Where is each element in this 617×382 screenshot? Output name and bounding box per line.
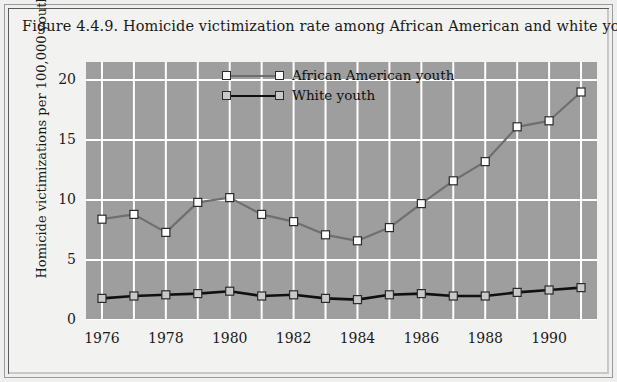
legend-label-white-youth: White youth [292, 89, 375, 103]
legend-marker-icon [275, 91, 284, 100]
series-lines [102, 92, 581, 300]
x-tick-label: 1982 [264, 330, 324, 346]
x-tick-label: 1984 [327, 330, 387, 346]
figure-title: Figure 4.4.9. Homicide victimization rat… [22, 18, 597, 34]
y-tick-label: 15 [40, 131, 76, 147]
legend-line-icon [228, 95, 278, 97]
x-tick-label: 1976 [72, 330, 132, 346]
x-tick-label: 1986 [391, 330, 451, 346]
legend-marker-icon [222, 71, 231, 80]
legend-marker-icon [275, 71, 284, 80]
legend-marker-icon [222, 91, 231, 100]
plot-area: African American youth White youth [86, 62, 597, 320]
x-tick-label: 1978 [136, 330, 196, 346]
figure-frame: Figure 4.4.9. Homicide victimization rat… [0, 0, 617, 382]
legend-swatch-african-american-youth [222, 69, 284, 83]
horizontal-gridlines [86, 80, 597, 320]
legend-line-icon [228, 75, 278, 77]
y-tick-label: 0 [40, 311, 76, 327]
y-tick-label: 20 [40, 71, 76, 87]
chart-legend: African American youth White youth [222, 66, 454, 106]
series-markers [98, 88, 585, 304]
x-tick-label: 1990 [519, 330, 579, 346]
legend-label-african-american-youth: African American youth [292, 69, 454, 83]
x-tick-label: 1980 [200, 330, 260, 346]
legend-entry-african-american-youth: African American youth [222, 66, 454, 86]
y-tick-label: 10 [40, 191, 76, 207]
y-tick-label: 5 [40, 251, 76, 267]
legend-swatch-white-youth [222, 89, 284, 103]
x-tick-label: 1988 [455, 330, 515, 346]
legend-entry-white-youth: White youth [222, 86, 454, 106]
